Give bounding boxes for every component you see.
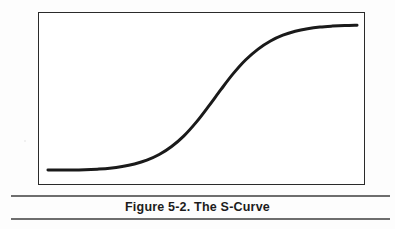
- s-curve-line: [48, 25, 357, 170]
- caption-rule-top: [11, 195, 390, 197]
- figure-container: Figure 5-2. The S-Curve: [0, 0, 395, 229]
- scan-artifact: [24, 140, 26, 142]
- plot-frame: [38, 12, 365, 185]
- s-curve-plot: [39, 13, 364, 184]
- caption-rule-bottom: [11, 218, 390, 220]
- figure-caption: Figure 5-2. The S-Curve: [0, 200, 395, 215]
